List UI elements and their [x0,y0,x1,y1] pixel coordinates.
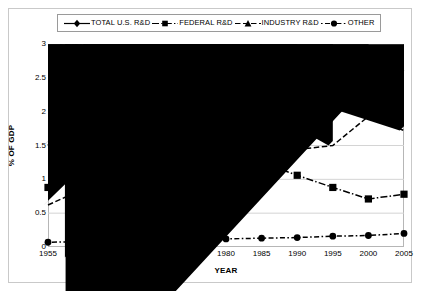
x-tick-label: 1995 [324,250,342,258]
data-point-marker [80,238,87,245]
x-tick-label: 1955 [39,250,57,258]
data-point-marker [151,236,158,243]
y-tick-label: 1.5 [35,142,46,150]
legend-swatch-circle-icon [321,18,347,29]
data-point-marker [365,195,372,202]
data-point-marker [187,236,194,243]
x-tick-label: 1990 [288,250,306,258]
x-tick-label: 1970 [146,250,164,258]
legend-label-federal: FEDERAL R&D [179,19,232,27]
x-tick-label: 1980 [217,250,235,258]
legend-label-industry: INDUSTRY R&D [262,19,319,27]
legend-entry-industry: INDUSTRY R&D [235,18,319,29]
x-tick-label: 2005 [395,250,413,258]
chart-figure: TOTAL U.S. R&D FEDERAL R&D INDUSTRY R&D [0,0,422,291]
data-point-marker [400,191,407,198]
legend-swatch-diamond-icon [64,18,90,29]
data-point-marker [401,230,408,237]
data-point-marker [365,232,372,239]
legend-entry-total: TOTAL U.S. R&D [64,18,150,29]
chart-legend: TOTAL U.S. R&D FEDERAL R&D INDUSTRY R&D [57,14,381,32]
plot-area [48,44,404,247]
x-tick-label: 1975 [181,250,199,258]
legend-label-total: TOTAL U.S. R&D [91,19,150,27]
data-point-marker [258,235,265,242]
data-point-marker [116,237,123,244]
data-series-layer [48,44,404,247]
y-tick-label: 2 [42,108,46,116]
data-point-marker [294,234,301,241]
legend-swatch-triangle-icon [235,18,261,29]
legend-swatch-square-icon [152,18,178,29]
data-point-marker [294,172,301,179]
y-tick-label: 2.5 [35,74,46,82]
x-tick-label: 2000 [359,250,377,258]
y-tick-label: 3 [42,40,46,48]
x-tick-label: 1960 [75,250,93,258]
y-axis-title-text: % OF GDP [8,125,17,167]
x-axis-tick-labels: 1955196019651970197519801985199019952000… [48,250,404,262]
x-tick-label: 1965 [110,250,128,258]
legend-entry-other: OTHER [321,18,375,29]
y-axis-tick-labels: 00.511.522.53 [20,44,46,247]
legend-entry-federal: FEDERAL R&D [152,18,232,29]
data-point-marker [258,159,265,166]
x-axis-title: YEAR [48,266,404,275]
y-tick-label: 0.5 [35,209,46,217]
x-tick-label: 1985 [253,250,271,258]
y-axis-title: % OF GDP [6,44,18,247]
y-tick-label: 1 [42,175,46,183]
legend-label-other: OTHER [348,19,375,27]
data-point-marker [223,235,230,242]
data-point-marker [329,233,336,240]
data-point-marker [329,184,336,191]
data-point-marker [45,239,52,246]
